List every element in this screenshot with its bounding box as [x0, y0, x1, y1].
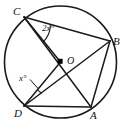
angle-label-x: x° [19, 74, 27, 83]
angle-label-2x: 2x° [42, 24, 54, 33]
geometry-figure: C B A D O 2x° x° [0, 0, 129, 126]
vertex-label-b: B [113, 36, 120, 47]
center-point-marker [58, 59, 63, 64]
segment-od [24, 62, 61, 106]
segment-ad [24, 106, 91, 107]
vertex-label-d: D [14, 108, 22, 119]
angle-label-leader-line [30, 80, 39, 90]
center-label-o: O [67, 56, 74, 66]
segment-ba [91, 41, 110, 107]
angle-arc-at-d [38, 90, 42, 94]
vertex-label-c: C [13, 6, 20, 17]
segment-db [24, 41, 110, 106]
vertex-label-a: A [90, 110, 97, 121]
